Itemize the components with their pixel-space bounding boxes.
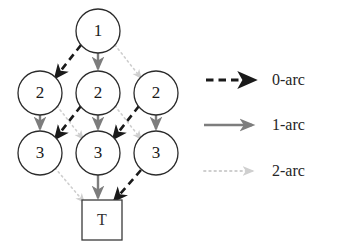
node-n2a: 2	[18, 71, 62, 115]
node-terminal: T	[82, 200, 122, 240]
edge-n2b-n3a-0arc	[55, 106, 81, 139]
edge-n3c-term-0arc	[114, 170, 141, 201]
legend-label-1-arc: 1-arc	[272, 116, 305, 133]
node-n1: 1	[76, 9, 120, 53]
edge-n2a-n3b-2arc	[57, 106, 83, 139]
node-label: 2	[94, 83, 103, 102]
node-label: 2	[36, 83, 45, 102]
legend-label-2-arc: 2-arc	[272, 162, 305, 179]
node-label: 3	[36, 143, 45, 162]
terminal-label: T	[97, 211, 107, 228]
legend-item-1-arc: 1-arc	[204, 116, 305, 133]
node-label: 1	[94, 21, 103, 40]
node-label: 3	[94, 143, 103, 162]
legend-item-2-arc: 2-arc	[204, 162, 305, 179]
edge-n1-n2a-0arc	[55, 45, 81, 78]
node-n3b: 3	[76, 131, 120, 175]
edge-n1-n2c-2arc	[115, 45, 141, 78]
legend-item-0-arc: 0-arc	[206, 71, 305, 88]
node-n2b: 2	[76, 71, 120, 115]
edge-n2c-n3b-0arc	[113, 106, 139, 139]
figure-root: 1 2 2 2 3 3 3 T	[0, 0, 337, 249]
dag-diagram: 1 2 2 2 3 3 3 T	[0, 0, 337, 249]
edge-n2b-n3c-2arc	[115, 106, 141, 139]
node-n3c: 3	[134, 131, 178, 175]
node-n3a: 3	[18, 131, 62, 175]
legend: 0-arc 1-arc 2-arc	[204, 71, 305, 179]
node-label: 3	[152, 143, 161, 162]
legend-label-0-arc: 0-arc	[272, 71, 305, 88]
node-n2c: 2	[134, 71, 178, 115]
node-label: 2	[152, 83, 161, 102]
edge-n3a-term-2arc	[55, 168, 84, 202]
